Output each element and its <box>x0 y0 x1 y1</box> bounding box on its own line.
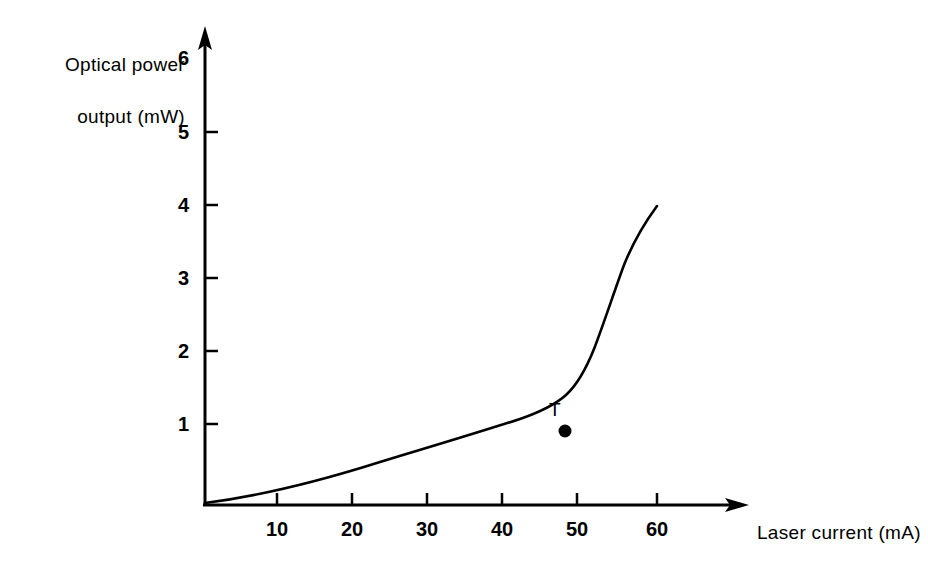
x-tick-label-50: 50 <box>557 518 597 541</box>
laser-diode-power-chart: Optical power output (mW) 6 5 4 3 2 1 10… <box>0 0 928 567</box>
x-axis-title: Laser current (mA) <box>757 520 921 546</box>
y-tick-label-4: 4 <box>163 194 189 217</box>
x-tick-label-10: 10 <box>257 518 297 541</box>
y-axis-title-line2: output (mW) <box>30 104 185 130</box>
y-tick-label-2: 2 <box>163 340 189 363</box>
y-tick-label-5: 5 <box>163 121 189 144</box>
x-axis-ticks <box>277 493 657 505</box>
x-tick-label-60: 60 <box>637 518 677 541</box>
y-tick-label-3: 3 <box>163 267 189 290</box>
y-tick-label-6: 6 <box>163 47 189 70</box>
x-tick-label-20: 20 <box>332 518 372 541</box>
data-curve <box>205 206 657 503</box>
y-axis-ticks <box>205 132 218 424</box>
y-axis-title: Optical power output (mW) <box>30 26 185 182</box>
x-tick-label-30: 30 <box>407 518 447 541</box>
x-tick-label-40: 40 <box>482 518 522 541</box>
y-tick-label-1: 1 <box>163 413 189 436</box>
threshold-point-marker <box>559 425 572 438</box>
threshold-point-label: T <box>549 399 561 421</box>
